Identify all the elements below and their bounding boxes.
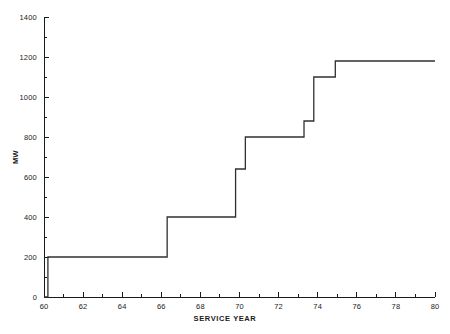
x-tick-label: 78 [392,302,401,311]
axis-lines [44,17,435,297]
x-axis-ticks [44,292,435,297]
y-tick-label: 200 [2,253,37,262]
x-tick-label: 74 [313,302,322,311]
plot-area [0,0,450,334]
y-tick-label: 1200 [2,53,37,62]
x-tick-label: 64 [118,302,127,311]
x-tick-label: 68 [196,302,205,311]
x-tick-label: 60 [40,302,49,311]
y-tick-label: 800 [2,133,37,142]
y-tick-label: 1400 [2,13,37,22]
x-tick-label: 66 [157,302,166,311]
y-tick-label: 1000 [2,93,37,102]
x-tick-label: 62 [79,302,88,311]
x-axis-title: SERVICE YEAR [0,314,450,323]
y-tick-label: 0 [2,293,37,302]
step-line-series [44,61,435,297]
y-axis-title: MW [11,150,20,164]
step-chart: 0200400600800100012001400 60626466687072… [0,0,450,334]
y-tick-label: 600 [2,173,37,182]
y-tick-label: 400 [2,213,37,222]
x-tick-label: 70 [235,302,244,311]
y-axis-ticks [44,17,49,297]
x-tick-label: 72 [274,302,283,311]
x-tick-label: 76 [352,302,361,311]
x-tick-label: 80 [431,302,440,311]
